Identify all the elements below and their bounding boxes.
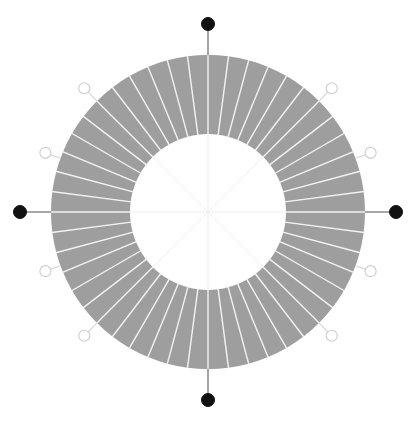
- marker-south-dot[interactable]: [202, 394, 215, 407]
- marker-west-dot[interactable]: [14, 206, 27, 219]
- marker-southeast-dot[interactable]: [326, 330, 337, 341]
- marker-east-south-dot[interactable]: [365, 266, 376, 277]
- marker-northeast-dot[interactable]: [326, 83, 337, 94]
- marker-southwest-dot[interactable]: [79, 330, 90, 341]
- marker-west-south-dot[interactable]: [40, 266, 51, 277]
- marker-northwest-dot[interactable]: [79, 83, 90, 94]
- marker-east-dot[interactable]: [390, 206, 403, 219]
- marker-west-north-dot[interactable]: [40, 147, 51, 158]
- marker-north-dot[interactable]: [202, 18, 215, 31]
- polar-donut-chart[interactable]: [0, 0, 418, 429]
- figure-stage: [0, 0, 418, 429]
- marker-east-north-dot[interactable]: [365, 147, 376, 158]
